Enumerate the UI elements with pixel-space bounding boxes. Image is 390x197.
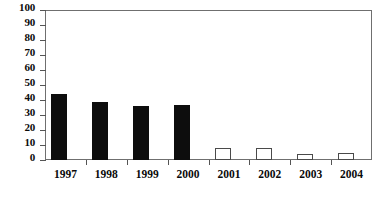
y-axis-tick-label: 100 xyxy=(19,2,35,13)
y-axis-tick-label: 60 xyxy=(24,62,35,73)
bar-1997 xyxy=(51,94,67,160)
x-axis-label-1998: 1998 xyxy=(86,168,127,181)
x-axis-tick-mark xyxy=(127,160,128,165)
y-axis-tick-label: 30 xyxy=(24,107,35,118)
x-axis-tick-mark xyxy=(86,160,87,165)
y-axis-tick-label: 40 xyxy=(24,92,35,103)
bars-layer xyxy=(45,10,372,160)
x-axis-labels: 19971998199920002001200220032004 xyxy=(45,168,372,188)
y-axis-tick-label: 20 xyxy=(24,122,35,133)
bar-2003 xyxy=(297,154,313,160)
bar-2001 xyxy=(215,148,231,160)
y-axis-tick-label: 50 xyxy=(24,77,35,88)
x-axis-tick-mark xyxy=(249,160,250,165)
y-axis-tick-label: 70 xyxy=(24,47,35,58)
x-axis-label-2003: 2003 xyxy=(290,168,331,181)
y-axis-tick-label: 80 xyxy=(24,32,35,43)
x-axis-tick-mark xyxy=(168,160,169,165)
x-axis-tick-mark xyxy=(290,160,291,165)
x-axis-label-2002: 2002 xyxy=(249,168,290,181)
y-axis: 0102030405060708090100 xyxy=(0,0,46,197)
x-axis-label-2001: 2001 xyxy=(209,168,250,181)
y-axis-tick-label: 0 xyxy=(30,152,35,163)
bar-chart: 0102030405060708090100 19971998199920002… xyxy=(0,0,390,197)
x-axis-label-2000: 2000 xyxy=(168,168,209,181)
x-axis-tick-mark xyxy=(331,160,332,165)
x-axis-tick-mark xyxy=(209,160,210,165)
y-axis-tick-label: 10 xyxy=(24,137,35,148)
x-axis-label-1999: 1999 xyxy=(127,168,168,181)
bar-2004 xyxy=(338,153,354,161)
y-axis-tick-label: 90 xyxy=(24,17,35,28)
bar-2002 xyxy=(256,148,272,160)
bar-2000 xyxy=(174,105,190,161)
x-axis-label-2004: 2004 xyxy=(331,168,372,181)
bar-1998 xyxy=(92,102,108,161)
y-axis-tick-mark xyxy=(40,160,46,161)
x-axis-label-1997: 1997 xyxy=(45,168,86,181)
bar-1999 xyxy=(133,106,149,160)
